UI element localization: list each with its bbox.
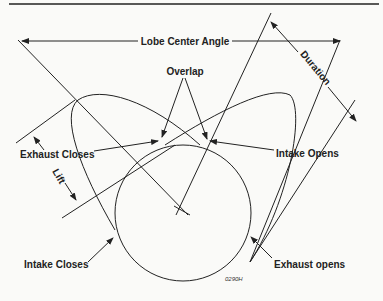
exhaust-opens-label: Exhaust opens <box>274 259 346 270</box>
lift-top-line <box>16 100 75 143</box>
exhaust-closes-arrow <box>94 141 158 151</box>
duration-arrow-up <box>271 22 298 52</box>
exhaust-centerline <box>18 40 188 215</box>
duration-arrow-down <box>328 87 356 121</box>
exhaust-closes-label: Exhaust Closes <box>20 149 95 160</box>
intake-lobe <box>165 93 296 262</box>
intake-opens-label: Intake Opens <box>276 148 339 159</box>
intake-opens-arrow <box>210 141 274 150</box>
cam-lobe-diagram: Lobe Center Angle Duration Overlap Exhau… <box>0 0 383 301</box>
overlap-arrow-right <box>185 78 207 139</box>
figure-code: 0290H <box>225 276 243 282</box>
overlap-label: Overlap <box>166 66 203 77</box>
intake-closes-line <box>75 100 160 300</box>
lobe-center-angle-label: Lobe Center Angle <box>141 36 230 47</box>
duration-label: Duration <box>298 48 333 87</box>
intake-closes-arrow <box>88 238 113 262</box>
base-circle <box>115 145 251 281</box>
lift-arrow-down <box>65 183 76 200</box>
intake-closes-label: Intake Closes <box>24 259 89 270</box>
intake-duration-line-2 <box>250 100 355 262</box>
